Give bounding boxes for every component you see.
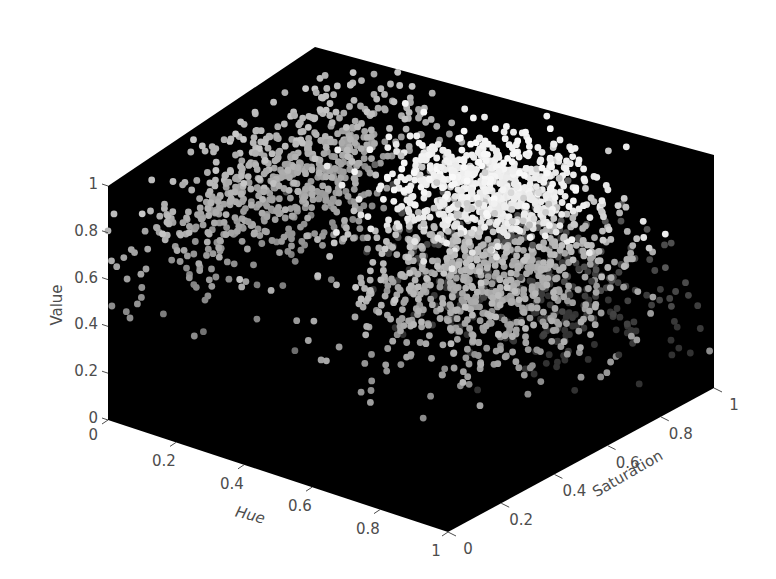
data-point: [333, 209, 340, 216]
data-point: [621, 263, 628, 270]
data-point: [591, 234, 598, 241]
data-point: [368, 111, 375, 118]
data-point: [309, 166, 316, 173]
data-point: [468, 186, 475, 193]
data-point: [445, 228, 452, 235]
data-point: [313, 89, 320, 96]
data-point: [462, 247, 469, 254]
data-point: [207, 188, 214, 195]
data-point: [286, 187, 293, 194]
data-point: [600, 237, 607, 244]
data-point: [331, 240, 338, 247]
data-point: [460, 379, 467, 386]
data-point: [485, 236, 492, 243]
data-point: [159, 231, 166, 238]
data-point: [204, 169, 211, 176]
data-point: [406, 109, 413, 116]
data-point: [526, 143, 533, 150]
data-point: [269, 237, 276, 244]
data-point: [633, 235, 640, 242]
data-point: [211, 220, 218, 227]
data-point: [591, 341, 598, 348]
data-point: [497, 346, 504, 353]
data-point: [419, 265, 426, 272]
data-point: [418, 319, 425, 326]
data-point: [291, 112, 298, 119]
data-point: [398, 271, 405, 278]
data-point: [406, 270, 413, 277]
data-point: [404, 215, 411, 222]
data-point: [248, 202, 255, 209]
y-tick-label: 0.2: [509, 511, 533, 529]
data-point: [493, 153, 500, 160]
x-tick-label: 0.6: [288, 497, 312, 515]
data-point: [522, 325, 529, 332]
data-point: [451, 365, 458, 372]
data-point: [508, 206, 515, 213]
data-point: [444, 150, 451, 157]
data-point: [368, 351, 375, 358]
data-point: [620, 284, 627, 291]
data-point: [461, 106, 468, 113]
data-point: [351, 97, 358, 104]
data-point: [570, 171, 577, 178]
data-point: [399, 306, 406, 313]
data-point: [600, 213, 607, 220]
data-point: [328, 174, 335, 181]
data-point: [421, 208, 428, 215]
data-point: [319, 242, 326, 249]
data-point: [569, 215, 576, 222]
data-point: [288, 235, 295, 242]
data-point: [193, 284, 200, 291]
data-point: [179, 181, 186, 188]
data-point: [321, 150, 328, 157]
data-point: [386, 125, 393, 132]
data-point: [420, 258, 427, 265]
tick-mark: [102, 324, 108, 326]
data-point: [546, 222, 553, 229]
data-point: [552, 276, 559, 283]
data-point: [385, 217, 392, 224]
data-point: [345, 193, 352, 200]
data-point: [553, 229, 560, 236]
data-point: [534, 305, 541, 312]
data-point: [516, 296, 523, 303]
data-point: [282, 143, 289, 150]
data-point: [512, 178, 519, 185]
data-point: [557, 222, 564, 229]
data-point: [503, 244, 510, 251]
data-point: [250, 261, 257, 268]
data-point: [494, 360, 501, 367]
data-point: [669, 352, 676, 359]
data-point: [369, 203, 376, 210]
x-tick-label: 0.4: [220, 475, 244, 493]
data-point: [341, 217, 348, 224]
data-point: [333, 281, 340, 288]
data-point: [358, 212, 365, 219]
data-point: [525, 391, 532, 398]
data-point: [501, 332, 508, 339]
data-point: [543, 360, 550, 367]
data-point: [470, 115, 477, 122]
data-point: [455, 261, 462, 268]
data-point: [573, 242, 580, 249]
data-point: [347, 136, 354, 143]
data-point: [401, 160, 408, 167]
data-point: [262, 157, 269, 164]
data-point: [455, 201, 462, 208]
data-point: [295, 121, 302, 128]
data-point: [142, 228, 149, 235]
data-point: [463, 354, 470, 361]
data-point: [254, 316, 261, 323]
data-point: [633, 328, 640, 335]
data-point: [527, 365, 534, 372]
data-point: [662, 231, 669, 238]
data-point: [259, 210, 266, 217]
data-point: [406, 223, 413, 230]
data-point: [477, 361, 484, 368]
data-point: [405, 254, 412, 261]
data-point: [367, 399, 374, 406]
data-point: [427, 165, 434, 172]
data-point: [694, 302, 701, 309]
data-point: [206, 276, 213, 283]
